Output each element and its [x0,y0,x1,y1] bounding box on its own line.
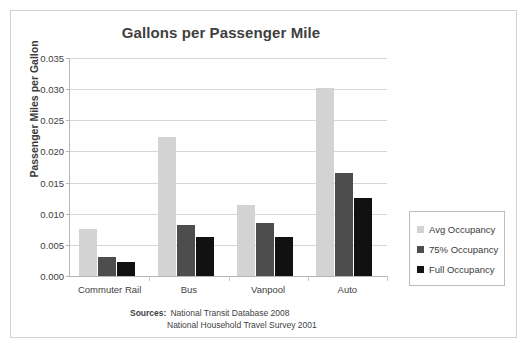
legend-item-label: Avg Occupancy [429,224,495,235]
chart-title: Gallons per Passenger Mile [11,24,431,41]
x-axis-category-label: Vanpool [229,284,308,295]
y-axis-tick-label: 0.020 [40,146,64,157]
bar[interactable] [117,262,135,276]
bar[interactable] [256,223,274,276]
legend-swatch-icon [417,246,424,253]
bar[interactable] [98,257,116,276]
y-axis-tick-label: 0.000 [40,271,64,282]
x-axis-tick-mark [229,276,230,281]
chart-container: Gallons per Passenger Mile Passenger Mil… [10,10,517,338]
bar[interactable] [79,229,97,276]
bar[interactable] [196,237,214,276]
x-axis-tick-mark [149,276,150,281]
legend-item[interactable]: Full Occupancy [417,264,498,275]
sources-line-1: National Transit Database 2008 [170,308,289,318]
bar-group: Commuter Rail [70,58,149,276]
bar[interactable] [335,173,353,276]
chart-legend: Avg Occupancy75% OccupancyFull Occupancy [409,211,505,286]
y-axis-title: Passenger Miles per Gallon [28,14,40,204]
y-axis-tick-mark [66,276,70,277]
bar[interactable] [237,205,255,276]
x-axis-category-label: Auto [308,284,387,295]
bars-layer: Commuter RailBusVanpoolAuto [70,58,387,276]
legend-swatch-icon [417,266,424,273]
sources-note: Sources:National Transit Database 2008 N… [130,307,317,331]
x-axis-category-label: Commuter Rail [70,284,149,295]
sources-line-2: National Household Travel Survey 2001 [167,319,317,331]
bar[interactable] [354,198,372,276]
x-axis-tick-mark [308,276,309,281]
bar[interactable] [177,225,195,276]
legend-item-label: 75% Occupancy [429,244,498,255]
x-axis-tick-mark [387,276,388,281]
bar-group: Vanpool [229,58,308,276]
x-axis-category-label: Bus [149,284,228,295]
bar[interactable] [158,137,176,276]
legend-swatch-icon [417,226,424,233]
y-axis-tick-label: 0.005 [40,239,64,250]
bar[interactable] [275,237,293,276]
legend-item-label: Full Occupancy [429,264,494,275]
bar[interactable] [316,88,334,276]
y-axis-tick-label: 0.025 [40,115,64,126]
y-axis-tick-label: 0.035 [40,53,64,64]
y-axis-tick-label: 0.010 [40,208,64,219]
sources-label: Sources: [130,308,166,318]
plot-area: 0.0000.0050.0100.0150.0200.0250.0300.035… [69,58,387,277]
y-axis-tick-label: 0.030 [40,84,64,95]
y-axis-tick-label: 0.015 [40,177,64,188]
bar-group: Bus [149,58,228,276]
legend-item[interactable]: 75% Occupancy [417,244,498,255]
bar-group: Auto [308,58,387,276]
legend-item[interactable]: Avg Occupancy [417,224,498,235]
